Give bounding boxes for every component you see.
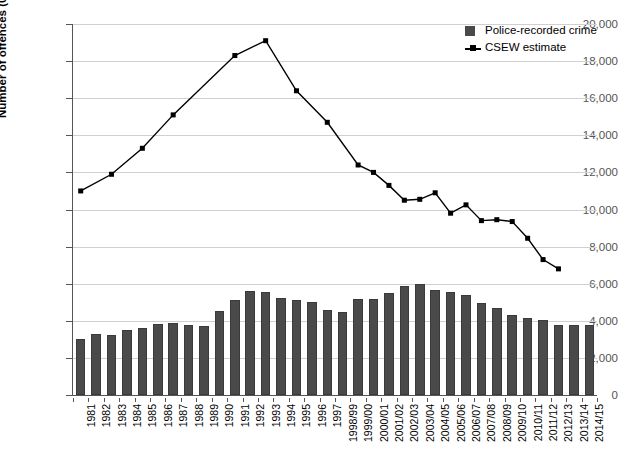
x-axis-tick-mark xyxy=(489,398,490,402)
data-point-marker: 2010/11: 8450 xyxy=(525,236,530,241)
x-axis-tick-mark xyxy=(397,398,398,402)
x-axis-tick-mark xyxy=(458,398,459,402)
x-axis-tick-label: 2006/07 xyxy=(470,404,482,442)
x-axis-tick-mark xyxy=(520,398,521,402)
y-axis-tick-mark xyxy=(66,24,72,25)
x-axis-tick-label: 1991 xyxy=(239,404,251,427)
x-axis-tick-label: 1985 xyxy=(146,404,158,427)
x-axis-tick-mark xyxy=(566,398,567,402)
x-axis-tick-label: 1982 xyxy=(100,404,112,427)
x-axis-tick-label: 1994 xyxy=(285,404,297,427)
data-point-marker: 1985: 13300 xyxy=(140,146,145,151)
y-axis-tick-mark xyxy=(66,284,72,285)
x-axis-tick-label: 1988 xyxy=(193,404,205,427)
x-axis-tick-mark xyxy=(212,398,213,402)
x-axis-tick-mark xyxy=(551,398,552,402)
x-axis-tick-label: 2012/13 xyxy=(562,404,574,442)
y-axis-tick-mark xyxy=(66,98,72,99)
x-axis-tick-label: 1997 xyxy=(331,404,343,427)
x-axis-tick-mark xyxy=(320,398,321,402)
crime-statistics-chart: Number of offences (000s) 02,0004,0006,0… xyxy=(0,0,618,460)
x-axis-tick-label: 1999/00 xyxy=(362,404,374,442)
x-axis-tick-label: 1998/99 xyxy=(347,404,359,442)
x-axis-tick-label: 1984 xyxy=(131,404,143,427)
x-axis-tick-mark xyxy=(535,398,536,402)
x-axis-tick-label: 2003/04 xyxy=(424,404,436,442)
data-point-marker: 2007/08: 9400 xyxy=(479,218,484,223)
data-point-marker: 1997: 14700 xyxy=(325,120,330,125)
x-axis-tick-label: 2002/03 xyxy=(408,404,420,442)
data-point-marker: 2012/13: 6800 xyxy=(556,266,561,271)
data-point-marker: 1981: 11000 xyxy=(78,188,83,193)
x-axis-tick-mark xyxy=(88,398,89,402)
data-point-marker: 2002/03: 10500 xyxy=(402,198,407,203)
x-axis-tick-mark xyxy=(150,398,151,402)
legend-label: Police-recorded crime xyxy=(485,24,597,36)
data-point-marker: 2009/10: 9350 xyxy=(510,219,515,224)
x-axis-tick-mark xyxy=(165,398,166,402)
x-axis-tick-mark xyxy=(304,398,305,402)
x-axis-tick-label: 1993 xyxy=(270,404,282,427)
data-point-marker: 2006/07: 10250 xyxy=(464,202,469,207)
x-axis-tick-mark xyxy=(443,398,444,402)
x-axis-tick-label: 2011/12 xyxy=(547,404,559,441)
x-axis-tick-mark xyxy=(289,398,290,402)
x-axis-tick-label: 1983 xyxy=(116,404,128,427)
y-axis-tick-mark xyxy=(66,358,72,359)
y-axis-tick-mark xyxy=(66,210,72,211)
data-point-marker: 1991: 18300 xyxy=(232,53,237,58)
y-axis-tick-mark xyxy=(66,247,72,248)
data-point-marker: 2003/04: 10550 xyxy=(417,197,422,202)
legend-label: CSEW estimate xyxy=(485,41,566,53)
csew-line-path xyxy=(81,41,559,269)
x-axis-tick-label: 1995 xyxy=(300,404,312,427)
x-axis-tick-mark xyxy=(350,398,351,402)
x-axis-tick-label: 1989 xyxy=(208,404,220,427)
x-axis-line xyxy=(72,395,597,396)
x-axis-tick-label: 2001/02 xyxy=(393,404,405,442)
y-axis-tick-mark xyxy=(66,172,72,173)
y-axis-title: Number of offences (000s) xyxy=(0,0,8,118)
x-axis-tick-mark xyxy=(582,398,583,402)
data-point-marker: 1993: 19100 xyxy=(263,38,268,43)
x-axis-tick-mark xyxy=(366,398,367,402)
x-axis-tick-mark xyxy=(427,398,428,402)
x-axis-tick-mark xyxy=(412,398,413,402)
x-axis-tick-mark xyxy=(119,398,120,402)
x-axis-tick-label: 1986 xyxy=(162,404,174,427)
data-point-marker: 2001/02: 11300 xyxy=(386,183,391,188)
x-axis-tick-mark xyxy=(104,398,105,402)
x-axis-tick-label: 2004/05 xyxy=(439,404,451,442)
y-axis-tick-mark xyxy=(66,395,72,396)
legend-marker-icon xyxy=(470,45,476,51)
x-axis-tick-mark xyxy=(597,398,598,402)
x-axis-tick-mark xyxy=(243,398,244,402)
x-axis-tick-label: 2000/01 xyxy=(378,404,390,442)
x-axis-tick-label: 2007/08 xyxy=(485,404,497,442)
x-axis-tick-label: 1992 xyxy=(254,404,266,427)
x-axis-tick-label: 1990 xyxy=(223,404,235,427)
x-axis-tick-label: 2009/10 xyxy=(516,404,528,442)
x-axis-tick-mark xyxy=(73,398,74,402)
y-axis-tick-mark xyxy=(66,135,72,136)
x-axis-labels: 1981198219831984198519861987198819891990… xyxy=(73,398,597,460)
x-axis-tick-mark xyxy=(335,398,336,402)
data-point-marker: 2000/01: 12000 xyxy=(371,170,376,175)
plot-area: 1981: 110001983: 119001985: 133001987: 1… xyxy=(73,24,597,395)
x-axis-tick-mark xyxy=(505,398,506,402)
x-axis-tick-label: 1987 xyxy=(177,404,189,427)
x-axis-tick-mark xyxy=(381,398,382,402)
y-axis-tick-mark xyxy=(66,61,72,62)
x-axis-tick-mark xyxy=(273,398,274,402)
data-point-marker: 1987: 15100 xyxy=(171,112,176,117)
x-axis-tick-label: 2010/11 xyxy=(532,404,544,441)
x-axis-tick-mark xyxy=(135,398,136,402)
legend-swatch-icon xyxy=(465,26,475,36)
data-point-marker: 1995: 16400 xyxy=(294,88,299,93)
x-axis-tick-mark xyxy=(181,398,182,402)
x-axis-tick-label: 2005/06 xyxy=(455,404,467,442)
data-point-marker: 1999/00: 12400 xyxy=(356,162,361,167)
data-point-marker: 2008/09: 9450 xyxy=(494,217,499,222)
x-axis-tick-mark xyxy=(196,398,197,402)
chart-legend: Police-recorded crime CSEW estimate xyxy=(465,24,615,58)
